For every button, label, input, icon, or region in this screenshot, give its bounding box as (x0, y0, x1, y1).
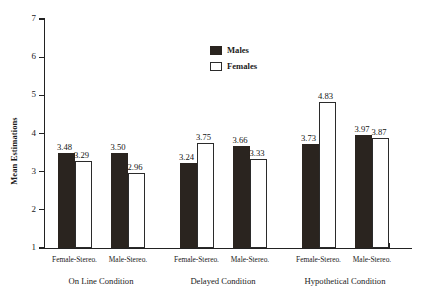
x-tick-label-5: Male-Stereo. (340, 256, 404, 264)
bar-label-females-4: 4.83 (318, 92, 333, 101)
y-tick-2 (39, 209, 45, 210)
bar-label-females-2: 3.75 (196, 133, 211, 142)
x-tick-label-1: Male-Stereo. (96, 256, 160, 264)
bar-females-5 (372, 138, 389, 248)
legend-item-males: Males (210, 44, 257, 57)
bar-females-0 (75, 161, 92, 248)
x-tick-end (389, 243, 390, 249)
bar-label-males-1: 3.50 (111, 143, 126, 152)
bar-females-2 (197, 143, 214, 248)
y-tick-3 (39, 171, 45, 172)
y-tick-label-2: 2 (20, 205, 36, 214)
y-axis-title: Mean Estimations (9, 106, 19, 196)
y-tick-label-5: 5 (20, 90, 36, 99)
group-label-0: On Line Condition (41, 277, 161, 286)
y-tick-4 (39, 133, 45, 134)
y-tick-7 (39, 18, 45, 19)
bar-females-3 (250, 159, 267, 248)
bar-females-4 (319, 102, 336, 248)
y-tick-label-1: 1 (20, 243, 36, 252)
y-tick-1 (39, 247, 45, 248)
bar-label-males-5: 3.97 (355, 125, 370, 134)
y-tick-label-3: 3 (20, 167, 36, 176)
bar-label-males-2: 3.24 (179, 153, 194, 162)
legend-label-males: Males (227, 46, 249, 55)
bar-females-1 (128, 173, 145, 248)
bar-males-2 (180, 163, 197, 248)
legend: Males Females (210, 44, 257, 76)
bar-males-5 (355, 135, 372, 248)
y-tick-5 (39, 95, 45, 96)
legend-swatch-females-icon (210, 62, 222, 71)
legend-label-females: Females (227, 62, 257, 71)
y-tick-label-4: 4 (20, 129, 36, 138)
bar-males-0 (58, 153, 75, 248)
y-tick-label-6: 6 (20, 52, 36, 61)
bar-label-females-1: 2.96 (128, 163, 143, 172)
legend-swatch-males-icon (210, 46, 222, 55)
bar-males-1 (111, 153, 128, 248)
legend-item-females: Females (210, 60, 257, 73)
y-tick-label-7: 7 (20, 14, 36, 23)
bar-label-males-4: 3.73 (301, 134, 316, 143)
x-axis-line (44, 248, 412, 249)
group-label-2: Hypothetical Condition (285, 277, 405, 286)
bar-label-females-5: 3.87 (372, 128, 387, 137)
bar-label-males-3: 3.66 (233, 136, 248, 145)
bar-label-females-3: 3.33 (250, 149, 265, 158)
y-tick-6 (39, 57, 45, 58)
bar-chart: Mean Estimations 1234567 3.483.293.502.9… (0, 0, 421, 302)
bar-label-females-0: 3.29 (74, 151, 89, 160)
x-tick-label-3: Male-Stereo. (218, 256, 282, 264)
bar-males-4 (302, 144, 319, 248)
bar-males-3 (233, 146, 250, 248)
bar-label-males-0: 3.48 (57, 143, 72, 152)
group-label-1: Delayed Condition (163, 277, 283, 286)
